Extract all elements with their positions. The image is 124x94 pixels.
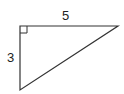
left-side-label: 3: [7, 50, 14, 65]
right-angle-marker: [20, 26, 27, 33]
right-triangle-diagram: 5 3: [0, 0, 124, 94]
triangle: [20, 26, 118, 90]
top-side-label: 5: [62, 8, 69, 23]
